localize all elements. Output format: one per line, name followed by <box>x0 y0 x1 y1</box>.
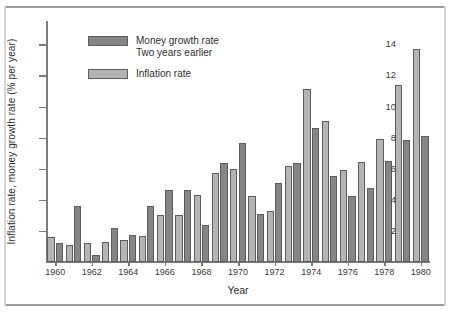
bar-group-1975 <box>320 21 338 262</box>
bar-money-growth-1975 <box>330 176 337 262</box>
x-tick-label-1972: 1972 <box>255 268 295 277</box>
y-tick-label-10: 10 <box>374 102 396 112</box>
bar-inflation-1973 <box>285 166 292 262</box>
x-tick-label-1978: 1978 <box>364 268 404 277</box>
bar-money-growth-1965 <box>147 206 154 262</box>
bar-money-growth-1967 <box>184 190 191 262</box>
figure-container: Inflation rate, money growth rate (% per… <box>0 0 450 313</box>
x-tick-1974 <box>311 262 313 266</box>
y-tick-label-14: 14 <box>374 39 396 49</box>
bar-money-growth-1974 <box>312 128 319 262</box>
figure-border-bottom <box>4 304 446 306</box>
bar-money-growth-1976 <box>348 196 355 262</box>
legend-label-inflation: Inflation rate <box>136 67 191 80</box>
bar-money-growth-1961 <box>74 206 81 262</box>
bar-inflation-1969 <box>212 173 219 262</box>
bar-money-growth-1971 <box>257 214 264 262</box>
bar-group-1974 <box>302 21 320 262</box>
x-tick-1980 <box>421 262 423 266</box>
bar-group-1973 <box>284 21 302 262</box>
y-tick-4 <box>39 200 46 202</box>
bar-inflation-1966 <box>157 215 164 262</box>
y-tick-label-4: 4 <box>374 195 396 205</box>
bar-money-growth-1970 <box>239 143 246 262</box>
y-tick-label-8: 8 <box>374 133 396 143</box>
bar-money-growth-1964 <box>129 235 136 262</box>
y-tick-12 <box>39 75 46 77</box>
y-tick-14 <box>39 44 46 46</box>
y-tick-label-12: 12 <box>374 70 396 80</box>
bar-group-1960 <box>46 21 64 262</box>
x-tick-1970 <box>238 262 240 266</box>
chart-legend: Money growth rate Two years earlier Infl… <box>88 34 268 85</box>
x-tick-label-1966: 1966 <box>145 268 185 277</box>
legend-item-money-growth: Money growth rate Two years earlier <box>88 34 268 61</box>
bar-inflation-1967 <box>175 215 182 262</box>
bar-money-growth-1962 <box>92 255 99 262</box>
bar-money-growth-1980 <box>421 136 428 262</box>
bar-money-growth-1972 <box>275 183 282 262</box>
bar-inflation-1980 <box>413 49 420 262</box>
bar-money-growth-1960 <box>56 243 63 262</box>
bar-money-growth-1969 <box>220 163 227 263</box>
bar-group-1972 <box>265 21 283 262</box>
legend-sublabel-money-growth: Two years earlier <box>136 46 212 59</box>
x-tick-label-1974: 1974 <box>291 268 331 277</box>
bar-inflation-1964 <box>120 240 127 262</box>
x-tick-1968 <box>201 262 203 266</box>
y-tick-2 <box>39 231 46 233</box>
bar-money-growth-1978 <box>385 161 392 262</box>
inflation-swatch <box>88 69 128 79</box>
x-axis-title: Year <box>46 284 430 296</box>
bar-inflation-1968 <box>194 195 201 262</box>
x-tick-1960 <box>55 262 57 266</box>
y-axis-title-text: Inflation rate, money growth rate (% per… <box>7 39 18 245</box>
x-tick-1964 <box>128 262 130 266</box>
bar-inflation-1970 <box>230 169 237 262</box>
y-axis-title: Inflation rate, money growth rate (% per… <box>4 21 20 262</box>
bar-inflation-1976 <box>340 170 347 262</box>
x-tick-label-1964: 1964 <box>108 268 148 277</box>
figure-border-top <box>4 6 446 8</box>
bar-money-growth-1968 <box>202 225 209 262</box>
y-tick-8 <box>39 138 46 140</box>
x-tick-label-1970: 1970 <box>218 268 258 277</box>
x-tick-label-1980: 1980 <box>401 268 441 277</box>
y-tick-label-2: 2 <box>374 226 396 236</box>
bar-money-growth-1973 <box>293 163 300 262</box>
legend-item-inflation: Inflation rate <box>88 67 268 83</box>
x-tick-1976 <box>348 262 350 266</box>
bar-group-1980 <box>412 21 430 262</box>
bar-inflation-1960 <box>47 237 54 262</box>
bar-inflation-1977 <box>358 162 365 262</box>
y-tick-label-6: 6 <box>374 164 396 174</box>
x-tick-label-1962: 1962 <box>72 268 112 277</box>
x-tick-label-1968: 1968 <box>181 268 221 277</box>
bar-inflation-1962 <box>84 243 91 262</box>
money-growth-swatch <box>88 36 128 46</box>
bar-inflation-1972 <box>267 211 274 262</box>
x-tick-1978 <box>384 262 386 266</box>
bar-group-1961 <box>64 21 82 262</box>
y-tick-6 <box>39 169 46 171</box>
x-tick-1972 <box>275 262 277 266</box>
bar-money-growth-1977 <box>367 188 374 262</box>
bar-group-1976 <box>339 21 357 262</box>
bar-inflation-1971 <box>248 196 255 262</box>
figure-border-right <box>444 6 446 306</box>
bar-inflation-1974 <box>303 89 310 262</box>
y-tick-10 <box>39 107 46 109</box>
bar-inflation-1961 <box>66 245 73 262</box>
x-tick-label-1976: 1976 <box>328 268 368 277</box>
bar-inflation-1975 <box>322 121 329 262</box>
bar-inflation-1965 <box>139 236 146 262</box>
bar-group-1979 <box>393 21 411 262</box>
x-tick-1962 <box>92 262 94 266</box>
x-tick-label-1960: 1960 <box>35 268 75 277</box>
bar-money-growth-1963 <box>111 228 118 262</box>
bar-inflation-1963 <box>102 242 109 262</box>
bar-group-1977 <box>357 21 375 262</box>
bar-money-growth-1966 <box>165 190 172 262</box>
x-tick-1966 <box>165 262 167 266</box>
bar-money-growth-1979 <box>403 140 410 262</box>
